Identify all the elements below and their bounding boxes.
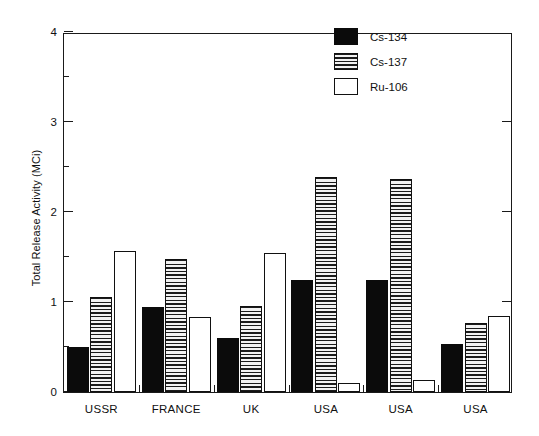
x-axis-tick-label: USA xyxy=(463,403,488,415)
bar-cs-137-france-1 xyxy=(165,259,187,392)
legend-swatch-cs-134 xyxy=(334,28,358,45)
y-axis-tick-label: 3 xyxy=(51,116,57,128)
y-axis-tick-label: 1 xyxy=(51,296,57,308)
legend-label: Cs-134 xyxy=(370,31,407,43)
bar-group: FRANCE xyxy=(139,34,214,392)
bar-cs-134-usa-5 xyxy=(441,344,463,392)
bar-cs-137-usa-4 xyxy=(390,179,412,392)
y-axis-tick-label: 2 xyxy=(51,206,57,218)
legend-label: Cs-137 xyxy=(370,56,407,68)
bar-group: USSR xyxy=(64,34,139,392)
bar-cs-134-france-1 xyxy=(142,307,164,393)
legend-item: Cs-134 xyxy=(334,24,454,49)
bar-chart-figure: Total Release Activity (MCi) 01234USSRFR… xyxy=(0,0,539,436)
legend-item: Ru-106 xyxy=(334,74,454,99)
bar-cs-137-uk-2 xyxy=(240,306,262,392)
legend-item: Cs-137 xyxy=(334,49,454,74)
bar-ru-106-france-1 xyxy=(189,317,211,392)
x-axis-tick-label: USA xyxy=(314,403,339,415)
bar-cs-134-usa-3 xyxy=(291,280,313,392)
bar-cs-137-usa-3 xyxy=(315,177,337,392)
bar-cs-137-ussr-0 xyxy=(90,297,112,392)
bar-cs-134-usa-4 xyxy=(366,280,388,392)
bar-cs-137-usa-5 xyxy=(465,323,487,392)
x-axis-tick-label: USSR xyxy=(85,403,118,415)
legend-label: Ru-106 xyxy=(370,81,408,93)
y-axis-label: Total Release Activity (MCi) xyxy=(30,118,42,318)
x-axis-tick-label: FRANCE xyxy=(152,403,201,415)
bar-ru-106-ussr-0 xyxy=(114,251,136,392)
x-axis-tick xyxy=(139,385,140,392)
y-axis-tick-label: 0 xyxy=(51,386,57,398)
y-axis-tick-label: 4 xyxy=(51,26,57,38)
bar-ru-106-usa-5 xyxy=(488,316,510,393)
bar-ru-106-usa-3 xyxy=(338,383,360,392)
x-axis-tick-label: USA xyxy=(388,403,413,415)
x-axis-tick-label: UK xyxy=(243,403,260,415)
legend-swatch-ru-106 xyxy=(334,78,358,95)
x-axis-tick xyxy=(214,385,215,392)
x-axis-tick xyxy=(289,385,290,392)
bar-ru-106-usa-4 xyxy=(413,380,435,392)
legend-swatch-cs-137 xyxy=(334,53,358,70)
bar-ru-106-uk-2 xyxy=(264,253,286,393)
x-axis-tick xyxy=(438,385,439,392)
y-axis-tick: 4 xyxy=(64,31,73,32)
bar-group: UK xyxy=(214,34,289,392)
chart-legend: Cs-134Cs-137Ru-106 xyxy=(334,24,454,99)
bar-cs-134-uk-2 xyxy=(217,338,239,392)
bar-cs-134-ussr-0 xyxy=(67,347,89,392)
x-axis-tick xyxy=(363,385,364,392)
